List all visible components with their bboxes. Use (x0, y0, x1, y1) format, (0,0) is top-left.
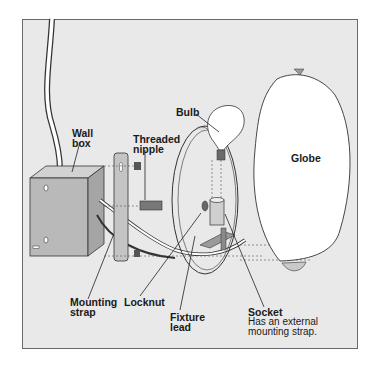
label-mounting-strap: Mounting strap (70, 297, 117, 317)
label-socket: Socket Has an external mounting strap. (248, 307, 318, 337)
label-bulb: Bulb (176, 107, 199, 117)
label-locknut: Locknut (124, 297, 165, 307)
label-globe: Globe (291, 153, 321, 163)
globe (254, 69, 350, 271)
mounting-strap (114, 153, 128, 261)
fixture-canopy (172, 126, 238, 274)
bulb (208, 105, 245, 160)
label-threaded-nipple: Threaded nipple (133, 134, 180, 154)
threaded-nipple (140, 201, 162, 210)
label-fixture-lead: Fixture lead (170, 312, 205, 332)
wall-box (30, 166, 104, 256)
locknut (202, 201, 208, 211)
label-wall-box: Wall box (72, 128, 93, 148)
